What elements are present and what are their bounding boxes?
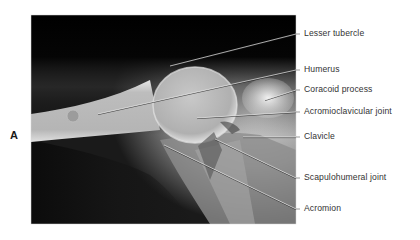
label-scapulohumeral-joint: Scapulohumeral joint xyxy=(304,172,386,182)
radiograph-figure: A Lesser tubercleHumerusCoracoid process… xyxy=(0,0,420,240)
label-clavicle: Clavicle xyxy=(304,131,335,141)
label-lesser-tubercle: Lesser tubercle xyxy=(304,28,364,38)
label-humerus: Humerus xyxy=(304,64,340,74)
panel-letter: A xyxy=(10,129,18,141)
label-acromion: Acromion xyxy=(304,203,341,213)
label-acromioclavicular-joint: Acromioclavicular joint xyxy=(304,106,392,116)
label-coracoid-process: Coracoid process xyxy=(304,84,372,94)
